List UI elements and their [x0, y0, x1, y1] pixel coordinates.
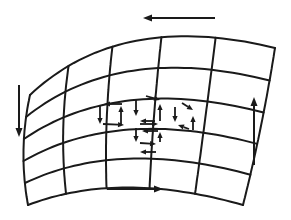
arrowhead-icon — [16, 128, 23, 137]
arrowhead-icon — [157, 104, 162, 110]
circulation-arrow-icon — [157, 132, 162, 142]
grid-column-line — [63, 66, 69, 194]
arrowhead-icon — [140, 149, 146, 154]
arrowhead-icon — [140, 118, 146, 123]
circulation-arrow-icon — [190, 116, 195, 130]
surface-grid-diagram — [0, 0, 291, 220]
circulation-arrow-icon — [172, 107, 177, 122]
grid-row-line — [28, 188, 243, 206]
grid-column-line — [243, 48, 275, 205]
grid-row-line — [25, 159, 251, 184]
circulation-arrow-icon — [118, 106, 123, 124]
grid-row-line — [26, 68, 270, 117]
grid-row-line — [24, 99, 264, 139]
grid-column-line — [106, 47, 112, 189]
arrowhead-icon — [152, 121, 158, 126]
circulation-arrow-icon — [140, 121, 158, 126]
grid-column-line — [195, 38, 216, 194]
right-arrow-up-icon — [251, 97, 258, 165]
grid-row-line — [24, 129, 258, 161]
circulation-arrow-icon — [140, 141, 156, 146]
arrowhead-icon — [97, 118, 102, 124]
arrowhead-icon — [190, 116, 195, 122]
arrowhead-icon — [178, 125, 185, 130]
grid-column-line — [24, 95, 31, 205]
arrowhead-icon — [172, 116, 177, 122]
arrowhead-icon — [133, 136, 138, 142]
circulation-arrow-icon — [178, 125, 189, 130]
circulation-arrow-icon — [182, 103, 193, 110]
arrowhead-icon — [157, 132, 162, 138]
left-arrow-down-icon — [16, 85, 23, 137]
arrowhead-icon — [154, 186, 163, 193]
circulation-arrow-icon — [157, 104, 162, 121]
circulation-arrow-icon — [140, 149, 156, 154]
top-arrow-left-icon — [143, 15, 215, 22]
arrowhead-icon — [251, 97, 258, 106]
diagram-canvas — [0, 0, 291, 220]
bottom-arrow-right-icon — [107, 186, 163, 193]
circulation-arrows — [97, 96, 195, 155]
arrowhead-icon — [133, 110, 138, 116]
arrowhead-icon — [118, 106, 123, 112]
circulation-arrow-icon — [133, 100, 138, 116]
arrowhead-icon — [143, 15, 152, 22]
circulation-arrow-icon — [97, 106, 102, 124]
